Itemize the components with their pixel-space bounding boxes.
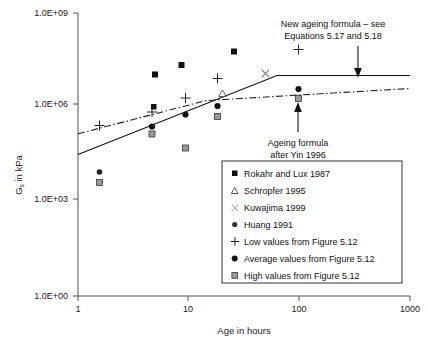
x-tick-label-10: 10 [183, 304, 193, 314]
data-point [179, 62, 185, 68]
data-point [97, 180, 103, 186]
x-axis-ticks: 1 10 100 1000 [75, 296, 420, 314]
x-axis-title: Age in hours [217, 325, 271, 336]
annotation-arrow-up-icon [294, 102, 302, 132]
data-point [183, 145, 189, 151]
legend-label: Rokahr and Lux 1987 [244, 169, 330, 179]
legend-label: Low values from Figure 5.12 [244, 237, 358, 247]
annotation-yin-line1: Ageing formula [268, 138, 329, 148]
data-point [214, 103, 220, 109]
annotation-yin-1996: Ageing formula after Yin 1996 [268, 102, 329, 160]
legend-marker-small-filled-circle-icon [232, 222, 237, 227]
y-tick-label-1e6: 1.0E+06 [34, 99, 68, 109]
annotation-yin-line2: after Yin 1996 [270, 150, 326, 160]
series-rokahr-and-lux-1987 [151, 49, 237, 110]
y-tick-label-1e0: 1.0E+00 [34, 291, 68, 301]
data-point [294, 45, 304, 55]
legend-item-rokahr-and-lux-1987[interactable]: Rokahr and Lux 1987 [232, 169, 330, 179]
data-point [149, 123, 155, 129]
x-tick-label-1000: 1000 [400, 304, 420, 314]
data-point [149, 131, 155, 137]
data-point [152, 72, 158, 78]
annotation-new-ageing-line2: Equations 5.17 and 5.18 [284, 31, 382, 41]
x-tick-label-100: 100 [291, 304, 306, 314]
data-point [231, 49, 237, 55]
legend-item-low-values-figure-5-12[interactable]: Low values from Figure 5.12 [231, 237, 358, 247]
data-point [262, 70, 269, 77]
series-low-values-figure-5-12 [95, 45, 304, 131]
series-kuwajima-1999 [262, 70, 269, 77]
legend-marker-filled-circle-icon [232, 256, 238, 262]
chart-figure: 1.0E+09 1.0E+06 1.0E+03 1.0E+00 1 10 100… [0, 0, 428, 341]
annotation-arrow-down-icon [354, 46, 362, 78]
data-point [213, 74, 223, 84]
data-point [182, 111, 188, 117]
line-new-ageing-formula [78, 76, 410, 155]
chart-svg: 1.0E+09 1.0E+06 1.0E+03 1.0E+00 1 10 100… [0, 0, 428, 341]
data-point [296, 96, 302, 102]
series-huang-1991 [97, 169, 103, 175]
legend-label: Average values from Figure 5.12 [244, 254, 374, 264]
series-average-values-figure-5-12 [149, 86, 302, 130]
legend-label: Schropfer 1995 [244, 186, 306, 196]
data-point [295, 86, 301, 92]
y-tick-label-1e9: 1.0E+09 [34, 8, 68, 18]
y-axis-title-rest: in kPa [13, 154, 24, 184]
data-point [215, 114, 221, 120]
legend-label: Kuwajima 1999 [244, 203, 306, 213]
annotation-new-ageing-formula: New ageing formula – see Equations 5.17 … [281, 19, 386, 78]
legend-item-high-values-figure-5-12[interactable]: High values from Figure 5.12 [232, 271, 360, 281]
legend-label: High values from Figure 5.12 [244, 271, 360, 281]
legend-marker-gray-square-icon [232, 273, 238, 279]
x-tick-label-1: 1 [75, 304, 80, 314]
y-tick-label-1e3: 1.0E+03 [34, 194, 68, 204]
data-point [97, 169, 103, 175]
legend-marker-filled-square-icon [232, 171, 238, 177]
y-axis-title-base: G [13, 187, 24, 194]
legend-item-average-values-figure-5-12[interactable]: Average values from Figure 5.12 [232, 254, 375, 264]
chart-legend: Rokahr and Lux 1987 Schropfer 1995 Kuwaj… [222, 161, 402, 283]
y-axis-title: Gs in kPa [13, 154, 25, 194]
line-yin-1996 [78, 89, 410, 134]
annotation-new-ageing-line1: New ageing formula – see [281, 19, 386, 29]
legend-label: Huang 1991 [244, 220, 293, 230]
svg-text:Gs in kPa: Gs in kPa [13, 154, 25, 194]
y-axis-ticks: 1.0E+09 1.0E+06 1.0E+03 1.0E+00 [34, 8, 78, 301]
data-point [181, 93, 191, 103]
